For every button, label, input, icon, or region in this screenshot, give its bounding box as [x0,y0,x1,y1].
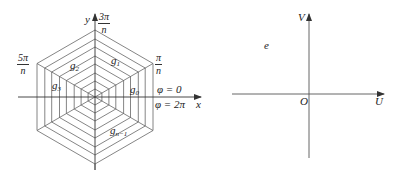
sector-label-gn-1: gn−1 [110,125,127,138]
sector-label-g2: g2 [70,60,79,73]
sector-label-g0: g0 [130,84,139,97]
fraction-numerator: 3π [98,12,110,24]
angle-label-upper-left: 5π n [17,53,29,76]
sector-subscript: 2 [76,65,80,73]
phi-two-pi-label: φ = 2π [155,99,185,110]
sector-label-g3: g3 [52,80,61,93]
fraction-denominator: n [156,65,161,76]
phi-zero-label: φ = 0 [157,84,182,95]
sector-subscript: 0 [136,89,140,97]
x-axis-label: x [196,99,201,110]
sector-subscript: 1 [117,60,121,68]
u-axis-label: U [375,96,383,107]
sector-subscript: n−1 [116,130,128,138]
sector-subscript: 3 [58,85,62,93]
sector-label-g1: g1 [111,55,120,68]
y-axis-label: y [85,14,90,25]
origin-label: O [300,96,308,107]
region-label-e: e [264,40,269,51]
angle-label-upper-right: π n [155,53,162,76]
angle-label-top: 3π n [98,12,110,35]
fraction-denominator: n [21,65,26,76]
fraction-numerator: π [155,53,162,65]
fraction-numerator: 5π [17,53,29,65]
fraction-denominator: n [102,24,107,35]
v-axis-label: V [298,12,305,23]
